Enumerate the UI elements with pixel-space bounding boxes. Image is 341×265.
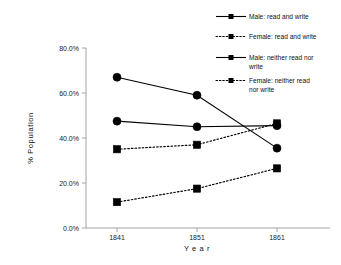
series-2-point-1: [193, 91, 201, 99]
series-2-point-0: [113, 73, 121, 81]
y-tick-label-0: 0.0%: [63, 225, 79, 232]
legend-entry-male-read-and-write[interactable]: Male: read and write: [216, 13, 309, 20]
legend-marker-square: [229, 14, 234, 19]
series-3-point-0: [113, 199, 120, 206]
series-3-point-1: [193, 185, 200, 192]
x-axis-title: Y e a r: [184, 244, 210, 253]
x-tick-label-1851: 1851: [189, 234, 205, 241]
series-1-point-0: [113, 146, 120, 153]
legend-marker-square: [229, 78, 234, 83]
series-2-point-2: [273, 144, 281, 152]
x-tick-label-1841: 1841: [109, 234, 125, 241]
legend-label-male-neither-read-nor-write: Male: neither read nor: [249, 54, 314, 61]
series-0-point-1: [193, 123, 201, 131]
y-tick-label-40: 40.0%: [59, 135, 79, 142]
legend-label-male-neither-read-nor-write-line2: write: [248, 63, 263, 70]
legend-label-female-read-and-write: Female: read and write: [249, 33, 317, 40]
legend-marker-square: [229, 55, 234, 60]
legend-entry-female-read-and-write[interactable]: Female: read and write: [216, 33, 317, 40]
series-0-point-0: [113, 117, 121, 125]
line-chart-svg: Male: read and write Female: read and wr…: [0, 0, 341, 265]
series-1-point-2: [273, 120, 280, 127]
y-tick-label-60: 60.0%: [59, 90, 79, 97]
legend-marker-square: [229, 34, 234, 39]
y-tick-label-20: 20.0%: [59, 180, 79, 187]
y-axis-title: % Population: [26, 112, 35, 163]
series-1-point-1: [193, 141, 200, 148]
y-tick-label-80: 80.0%: [59, 45, 79, 52]
legend-label-male-read-and-write: Male: read and write: [249, 13, 309, 20]
legend-label-female-neither-read-nor-write: Female: neither read: [249, 77, 310, 84]
x-tick-label-1861: 1861: [269, 234, 285, 241]
chart-figure: Male: read and write Female: read and wr…: [0, 0, 341, 265]
legend-label-female-neither-read-nor-write-line2: nor write: [249, 86, 275, 93]
series-3-point-2: [273, 165, 280, 172]
